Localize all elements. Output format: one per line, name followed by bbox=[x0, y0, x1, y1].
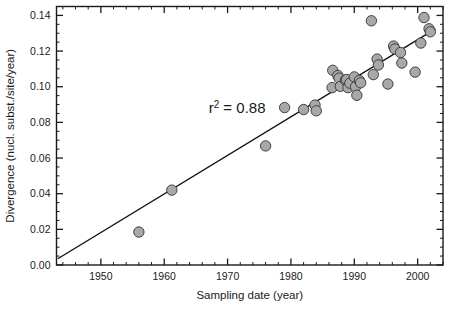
x-tick-label: 1950 bbox=[89, 270, 113, 282]
data-point bbox=[373, 60, 383, 70]
divergence-vs-sampling-date-chart: 195019601970198019902000 0.000.020.040.0… bbox=[0, 0, 455, 317]
data-point bbox=[395, 47, 405, 57]
y-tick-label: 0.06 bbox=[30, 152, 51, 164]
r-squared-annotation: r2 = 0.88 bbox=[209, 99, 266, 116]
data-point bbox=[410, 67, 420, 77]
y-tick-label: 0.10 bbox=[30, 80, 51, 92]
y-axis-ticks bbox=[57, 7, 444, 266]
data-point bbox=[260, 141, 270, 151]
x-tick-label: 1980 bbox=[279, 270, 303, 282]
x-tick-label: 1960 bbox=[153, 270, 177, 282]
x-tick-label: 1990 bbox=[343, 270, 367, 282]
data-point bbox=[279, 102, 289, 112]
data-point bbox=[366, 16, 376, 26]
chart-annotations: r2 = 0.88 bbox=[209, 99, 266, 116]
data-point bbox=[355, 78, 365, 88]
data-point bbox=[298, 104, 308, 114]
data-point bbox=[419, 12, 429, 22]
x-axis-ticks bbox=[63, 7, 443, 266]
y-tick-label: 0.04 bbox=[30, 187, 51, 199]
plot-frame bbox=[57, 7, 444, 266]
y-axis-tick-labels: 0.000.020.040.060.080.100.120.14 bbox=[30, 9, 51, 271]
data-point bbox=[383, 79, 393, 89]
x-tick-label: 1970 bbox=[216, 270, 240, 282]
data-point bbox=[425, 27, 435, 37]
y-tick-label: 0.08 bbox=[30, 116, 51, 128]
data-point bbox=[397, 58, 407, 68]
x-axis-tick-labels: 195019601970198019902000 bbox=[89, 270, 429, 282]
data-point bbox=[368, 69, 378, 79]
data-point bbox=[311, 106, 321, 116]
y-tick-label: 0.02 bbox=[30, 223, 51, 235]
scatter-plot-figure: 195019601970198019902000 0.000.020.040.0… bbox=[0, 0, 455, 317]
y-tick-label: 0.14 bbox=[30, 9, 51, 21]
data-points-layer bbox=[134, 12, 436, 237]
y-tick-label: 0.12 bbox=[30, 45, 51, 57]
y-tick-label: 0.00 bbox=[30, 259, 51, 271]
data-point bbox=[167, 185, 177, 195]
x-axis-title: Sampling date (year) bbox=[196, 289, 303, 301]
y-axis-title: Divergence (nucl. subst./site/year) bbox=[4, 49, 16, 223]
data-point bbox=[352, 90, 362, 100]
data-point bbox=[416, 38, 426, 48]
data-point bbox=[134, 227, 144, 237]
x-tick-label: 2000 bbox=[406, 270, 430, 282]
